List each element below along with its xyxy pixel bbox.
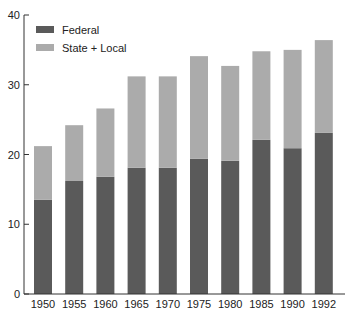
bar-federal-1975 [190, 159, 208, 294]
legend: Federal State + Local [36, 24, 127, 54]
bar-state-local-1970 [159, 76, 177, 167]
y-tick-label: 20 [8, 149, 20, 161]
bar-state-local-1992 [315, 40, 333, 133]
bar-state-local-1965 [128, 76, 146, 167]
x-tick-label: 1975 [187, 298, 211, 310]
bar-state-local-1955 [65, 125, 83, 181]
x-tick-label: 1965 [124, 298, 148, 310]
bar-federal-1970 [159, 168, 177, 294]
bar-state-local-1980 [221, 66, 239, 161]
y-tick-label: 10 [8, 218, 20, 230]
y-axis: 010203040 [8, 9, 29, 300]
y-tick-label: 40 [8, 9, 20, 21]
legend-swatch-federal [36, 26, 54, 33]
x-tick-label: 1970 [156, 298, 180, 310]
bar-federal-1992 [315, 133, 333, 294]
x-tick-label: 1990 [280, 298, 304, 310]
legend-label-federal: Federal [62, 24, 99, 36]
bar-federal-1950 [34, 200, 52, 294]
bar-federal-1990 [284, 148, 302, 294]
bar-state-local-1990 [284, 50, 302, 148]
x-tick-label: 1955 [62, 298, 86, 310]
x-tick-label: 1980 [218, 298, 242, 310]
bar-state-local-1975 [190, 56, 208, 159]
legend-swatch-state-local [36, 44, 54, 51]
x-axis: 1950195519601965197019751980198519901992 [24, 294, 345, 310]
x-tick-label: 1985 [249, 298, 273, 310]
legend-label-state-local: State + Local [62, 42, 127, 54]
bar-state-local-1985 [252, 51, 270, 140]
x-tick-label: 1950 [31, 298, 55, 310]
stacked-bar-chart: 010203040 195019551960196519701975198019… [0, 0, 352, 317]
bars [34, 40, 333, 294]
bar-federal-1960 [96, 177, 114, 294]
bar-state-local-1960 [96, 108, 114, 176]
y-tick-label: 0 [14, 288, 20, 300]
bar-federal-1965 [128, 168, 146, 294]
bar-federal-1955 [65, 181, 83, 294]
bar-federal-1985 [252, 140, 270, 294]
y-tick-label: 30 [8, 79, 20, 91]
bar-state-local-1950 [34, 146, 52, 200]
x-tick-label: 1960 [93, 298, 117, 310]
bar-federal-1980 [221, 161, 239, 294]
x-tick-label: 1992 [312, 298, 336, 310]
